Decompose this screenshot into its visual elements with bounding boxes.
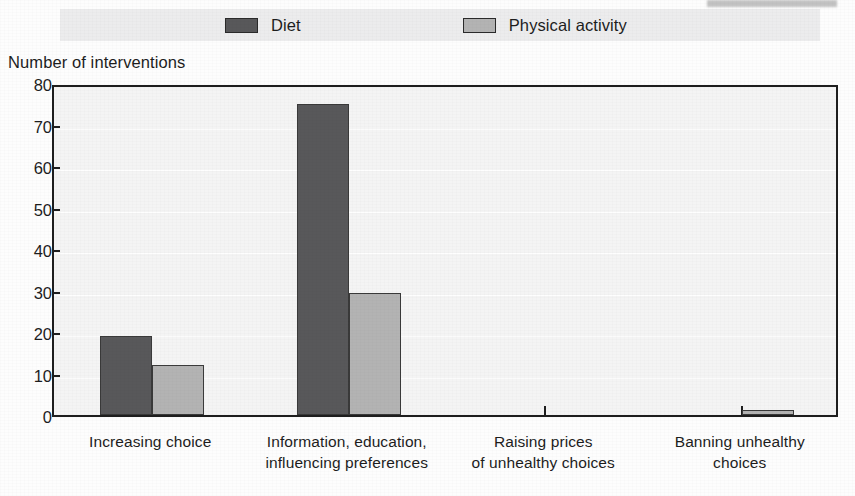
- plot-inner: [54, 87, 836, 415]
- x-axis-label-2: Raising pricesof unhealthy choices: [445, 424, 642, 492]
- y-axis-tick-50: 50: [8, 200, 52, 219]
- bar-0-physical-activity: [152, 365, 204, 415]
- y-axis-tickmark-20: [52, 333, 60, 335]
- gridline-30: [54, 295, 836, 296]
- gridline-20: [54, 336, 836, 337]
- y-axis-tickmark-40: [52, 250, 60, 252]
- scan-artifact: [707, 0, 837, 7]
- gridline-60: [54, 170, 836, 171]
- x-axis-label-0-line-0: Increasing choice: [52, 431, 249, 452]
- x-axis-label-0: Increasing choice: [52, 424, 249, 492]
- bar-1-diet: [297, 104, 349, 415]
- y-axis-tickmark-50: [52, 209, 60, 211]
- y-axis-tick-20: 20: [8, 325, 52, 344]
- legend-label-physical-activity: Physical activity: [509, 16, 627, 35]
- y-axis-tick-0: 0: [8, 408, 52, 427]
- gridline-50: [54, 212, 836, 213]
- x-axis-label-2-line-1: of unhealthy choices: [445, 452, 642, 473]
- x-axis-label-3-line-0: Banning unhealthy: [642, 431, 839, 452]
- gridline-40: [54, 253, 836, 254]
- legend-label-diet: Diet: [271, 16, 301, 35]
- x-axis-label-1: Information, education,influencing prefe…: [249, 424, 446, 492]
- gridline-70: [54, 129, 836, 130]
- y-axis-tick-labels: 01020304050607080: [0, 85, 52, 417]
- x-axis-label-1-line-0: Information, education,: [249, 431, 446, 452]
- x-axis-label-3-line-1: choices: [642, 452, 839, 473]
- bar-0-diet: [100, 336, 152, 415]
- x-axis-label-2-line-0: Raising prices: [445, 431, 642, 452]
- legend-item-diet: Diet: [225, 16, 301, 35]
- y-axis-title: Number of interventions: [8, 53, 185, 72]
- y-axis-tick-70: 70: [8, 117, 52, 136]
- y-axis-tick-60: 60: [8, 159, 52, 178]
- bar-1-physical-activity: [349, 293, 401, 415]
- y-axis-tick-30: 30: [8, 283, 52, 302]
- legend-swatch-physical-activity: [463, 18, 496, 33]
- y-axis-tickmark-30: [52, 292, 60, 294]
- y-axis-tick-10: 10: [8, 366, 52, 385]
- chart-legend: Diet Physical activity: [60, 9, 820, 41]
- x-axis-label-3: Banning unhealthychoices: [642, 424, 839, 492]
- x-axis-label-1-line-1: influencing preferences: [249, 452, 446, 473]
- y-axis-tickmark-10: [52, 375, 60, 377]
- x-axis-category-labels: Increasing choiceInformation, education,…: [52, 424, 838, 492]
- legend-item-physical-activity: Physical activity: [463, 16, 627, 35]
- y-axis-tick-80: 80: [8, 76, 52, 95]
- x-axis-tickmark-2: [544, 406, 546, 415]
- y-axis-tickmark-70: [52, 126, 60, 128]
- y-axis-tick-40: 40: [8, 242, 52, 261]
- legend-swatch-diet: [225, 18, 258, 33]
- bar-3-physical-activity: [742, 410, 794, 415]
- y-axis-tickmark-60: [52, 167, 60, 169]
- plot-area: [52, 85, 838, 417]
